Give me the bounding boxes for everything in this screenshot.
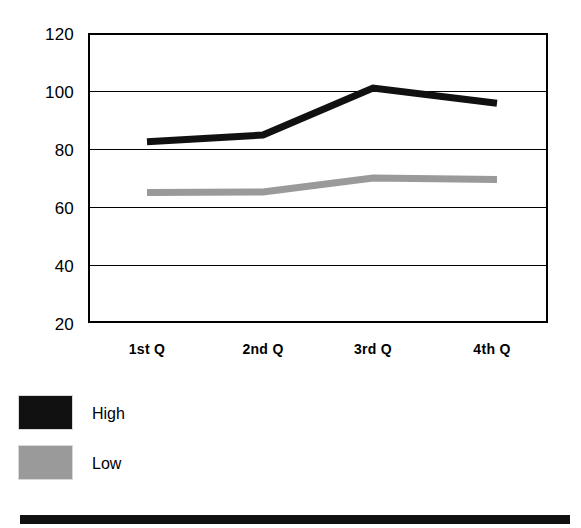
legend-item-high: High <box>18 393 248 443</box>
line-chart-figure: 120 100 80 60 40 20 1st Q 2nd Q 3rd Q 4t… <box>0 0 581 528</box>
series-plot <box>88 33 548 323</box>
chart-legend: High Low <box>18 393 248 493</box>
legend-label-low: Low <box>92 455 121 473</box>
x-axis: 1st Q 2nd Q 3rd Q 4th Q <box>88 341 548 367</box>
y-tick-label-60: 60 <box>55 200 74 217</box>
y-tick-label-40: 40 <box>55 258 74 275</box>
y-tick-label-80: 80 <box>55 142 74 159</box>
y-tick-label-20: 20 <box>55 316 74 333</box>
legend-swatch-low <box>18 445 73 480</box>
y-axis: 120 100 80 60 40 20 <box>0 0 82 340</box>
legend-swatch-high <box>18 395 73 430</box>
bottom-divider-bar <box>20 515 570 524</box>
series-line-low <box>147 178 497 193</box>
legend-label-high: High <box>92 405 125 423</box>
x-tick-label-2nd-q: 2nd Q <box>242 341 283 357</box>
x-tick-label-1st-q: 1st Q <box>129 341 166 357</box>
legend-item-low: Low <box>18 443 248 493</box>
x-tick-label-3rd-q: 3rd Q <box>354 341 392 357</box>
series-line-high <box>147 88 497 142</box>
y-tick-label-100: 100 <box>45 84 74 101</box>
x-tick-label-4th-q: 4th Q <box>473 341 510 357</box>
y-tick-label-120: 120 <box>45 26 74 43</box>
